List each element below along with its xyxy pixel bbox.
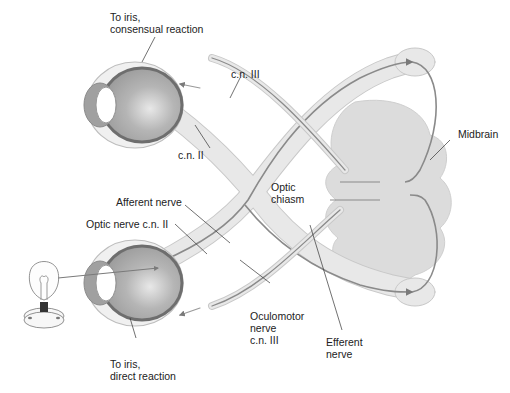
eye-bottom bbox=[84, 240, 183, 326]
label-to-iris-direct-2: direct reaction bbox=[110, 370, 176, 382]
label-afferent-nerve: Afferent nerve bbox=[116, 196, 182, 208]
eye-top bbox=[84, 62, 183, 148]
label-optic-nerve-cn-ii: Optic nerve c.n. II bbox=[86, 218, 168, 230]
label-oculomotor: Oculomotor bbox=[250, 310, 305, 322]
label-cn-ii-top: c.n. II bbox=[178, 149, 204, 161]
pupillary-reflex-diagram: To iris, consensual reaction c.n. III c.… bbox=[0, 0, 510, 393]
label-to-iris-direct: To iris, bbox=[110, 358, 140, 370]
label-to-iris-consensual: To iris, bbox=[110, 11, 140, 23]
label-to-iris-consensual-2: consensual reaction bbox=[110, 23, 204, 35]
light-bulb-icon bbox=[24, 262, 64, 329]
label-efferent: Efferent bbox=[326, 336, 363, 348]
label-midbrain: Midbrain bbox=[458, 128, 498, 140]
label-efferent-2: nerve bbox=[326, 348, 352, 360]
label-optic-chiasm: Optic bbox=[271, 181, 296, 193]
label-optic-chiasm-2: chiasm bbox=[271, 193, 305, 205]
label-cn-iii-top: c.n. III bbox=[231, 68, 260, 80]
label-oculomotor-3: c.n. III bbox=[250, 334, 279, 346]
label-oculomotor-2: nerve bbox=[250, 322, 276, 334]
